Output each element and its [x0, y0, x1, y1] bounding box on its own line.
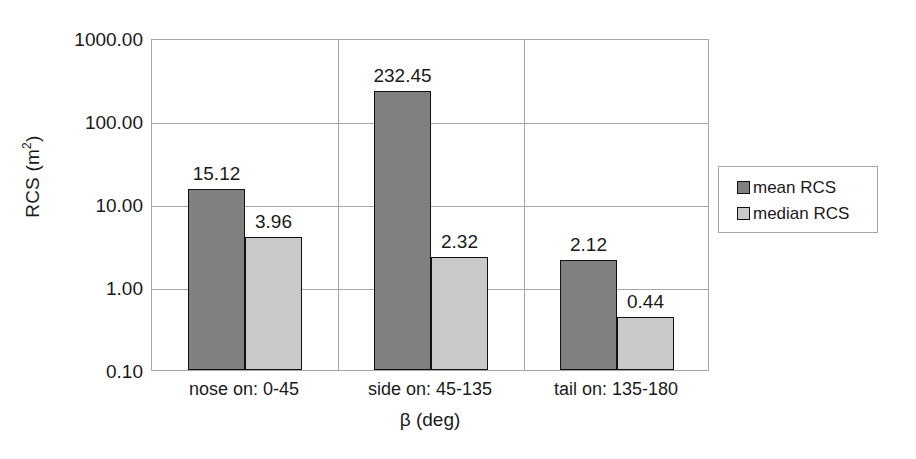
legend-item-label: median RCS: [753, 205, 849, 222]
rcs-bar-chart: RCS (m2) 1000.00100.0010.001.000.10 15.1…: [0, 0, 916, 459]
legend: mean RCSmedian RCS: [718, 166, 878, 233]
bar-value-label: 0.44: [607, 292, 684, 311]
bar-mean[interactable]: [374, 91, 431, 370]
median-swatch: [737, 207, 750, 220]
y-axis-tick-label: 0.10: [15, 362, 143, 381]
x-axis-tick-label: nose on: 0-45: [151, 379, 337, 399]
bar-value-label: 2.12: [550, 235, 627, 254]
legend-item[interactable]: median RCS: [737, 200, 877, 226]
bar-median[interactable]: [617, 317, 674, 370]
y-axis-tick-label: 10.00: [15, 196, 143, 215]
bar-median[interactable]: [245, 237, 302, 370]
legend-item-label: mean RCS: [753, 179, 836, 196]
mean-swatch: [737, 181, 750, 194]
y-axis-tick-label: 100.00: [15, 113, 143, 132]
bar-mean[interactable]: [560, 260, 617, 370]
gridline-category-separator: [338, 40, 339, 370]
bar-median[interactable]: [431, 257, 488, 370]
legend-item[interactable]: mean RCS: [737, 174, 877, 200]
y-axis-tick-label: 1000.00: [15, 30, 143, 49]
bar-value-label: 232.45: [364, 66, 441, 85]
x-axis-tick-label: tail on: 135-180: [523, 379, 709, 399]
plot-area: 15.123.96232.452.322.120.44: [151, 39, 709, 371]
gridline-category-separator: [524, 40, 525, 370]
x-axis-tick-label: side on: 45-135: [337, 379, 523, 399]
bar-value-label: 15.12: [178, 164, 255, 183]
y-axis-tick-label: 1.00: [15, 279, 143, 298]
x-axis-title: β (deg): [151, 409, 709, 431]
y-axis-tick-labels: 1000.00100.0010.001.000.10: [0, 0, 143, 459]
bar-value-label: 3.96: [235, 212, 312, 231]
bar-value-label: 2.32: [421, 232, 498, 251]
